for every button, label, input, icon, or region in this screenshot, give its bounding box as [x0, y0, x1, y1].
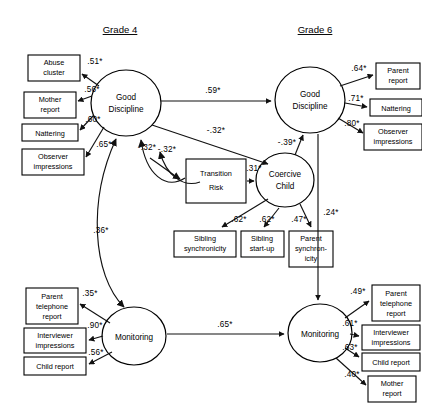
- coef-g4mon-interviewer: .90*: [87, 321, 103, 330]
- coef-g6mon-childreport: .63*: [342, 343, 358, 352]
- node-g6-good-discipline: Good Discipline: [275, 67, 345, 133]
- coef-g4disc-nattering: .60*: [85, 115, 101, 124]
- box-sibling-startup-line2: start-up: [250, 244, 275, 253]
- box-g4-observer-impressions: Observer impressions: [22, 149, 84, 175]
- coef-transition-coercive: .31*: [246, 164, 262, 173]
- node-g6-good-discipline-line2: Discipline: [292, 102, 327, 111]
- box-g6-observer-line2: impressions: [374, 137, 413, 146]
- box-g6-parent-report-line1: Parent: [387, 66, 409, 75]
- box-g4-child-report-label: Child report: [36, 362, 74, 371]
- coef-g4disc-observer: .65*: [96, 140, 112, 149]
- node-g4-good-discipline: Good Discipline: [91, 70, 161, 136]
- box-g6-parent-report-line2: report: [388, 76, 407, 85]
- box-transition-risk-line2: Risk: [209, 183, 224, 192]
- coef-g4mon-parenttel: .35*: [82, 289, 98, 298]
- box-g4-mother-report-line1: Mother: [39, 95, 62, 104]
- node-g6-monitoring-label: Monitoring: [301, 330, 340, 339]
- coef-g6mon-parenttel: .49*: [350, 287, 366, 296]
- box-sibling-synchronicity: Sibling synchronicity: [174, 231, 236, 257]
- box-g4-child-report: Child report: [24, 357, 86, 375]
- box-g6-parent-tel-line3: report: [386, 309, 405, 318]
- coef-g4mon-g6mon: .65*: [217, 320, 233, 329]
- box-sibling-sync-line1: Sibling: [194, 234, 216, 243]
- coef-g6mon-interviewer: .61*: [342, 319, 358, 328]
- box-g6-interviewer-line2: impressions: [372, 338, 411, 347]
- box-g6-nattering: Nattering: [370, 99, 422, 116]
- box-g4-mother-report: Mother report: [24, 92, 76, 118]
- box-g6-mother-report-line2: report: [382, 389, 401, 398]
- box-g6-nattering-label: Nattering: [381, 104, 411, 113]
- box-g6-mother-report-line1: Mother: [381, 379, 404, 388]
- box-abuse-cluster: Abuse cluster: [28, 55, 80, 81]
- box-sibling-startup: Sibling start-up: [241, 231, 284, 257]
- node-g4-good-discipline-line2: Discipline: [108, 105, 143, 114]
- coef-coercive-g6disc: -.39*: [278, 138, 297, 147]
- coef-g6mon-mother: .40*: [344, 370, 360, 379]
- box-g6-parent-telephone-report: Parent telephone report: [372, 285, 420, 321]
- box-g6-child-report: Child report: [362, 353, 420, 371]
- node-g4-good-discipline-line1: Good: [116, 93, 136, 102]
- box-g6-interviewer-impressions: Interviewer impressions: [362, 325, 420, 350]
- box-transition-risk: Transition Risk: [186, 159, 246, 203]
- coef-g4disc-abuse: .51*: [87, 57, 103, 66]
- box-g6-mother-report: Mother report: [368, 376, 416, 402]
- coef-g6disc-observer: .80*: [344, 119, 360, 128]
- node-coercive-child: Coercive Child: [256, 153, 314, 207]
- node-coercive-child-line1: Coercive: [269, 170, 302, 179]
- box-g4-interviewer-line2: impressions: [36, 341, 75, 350]
- box-abuse-cluster-line1: Abuse: [44, 58, 65, 67]
- box-g6-interviewer-line1: Interviewer: [373, 328, 409, 337]
- box-parent-synchronicity: Parent synchron- icity: [289, 231, 333, 267]
- node-g4-monitoring-label: Monitoring: [115, 333, 154, 342]
- path-diagram-canvas: Grade 4 Grade 6 Abuse cluster Mother rep…: [0, 0, 422, 412]
- box-parent-sync-line3: icity: [305, 254, 318, 263]
- node-coercive-child-line2: Child: [276, 182, 295, 191]
- box-g6-observer-line1: Observer: [378, 127, 409, 136]
- box-sibling-startup-line1: Sibling: [251, 234, 273, 243]
- coef-g4disc-g4mon: .36*: [93, 226, 109, 235]
- box-parent-sync-line2: synchron-: [295, 244, 328, 253]
- box-g6-parent-tel-line2: telephone: [380, 299, 412, 308]
- node-g6-monitoring: Monitoring: [288, 304, 352, 362]
- box-g4-mother-report-line2: report: [40, 105, 59, 114]
- box-g4-interviewer-impressions: Interviewer impressions: [24, 328, 86, 353]
- box-g4-interviewer-line1: Interviewer: [37, 331, 73, 340]
- grade4-title: Grade 4: [103, 24, 138, 35]
- grade6-title: Grade 6: [298, 24, 333, 35]
- coef-g4disc-mother: .56*: [84, 85, 100, 94]
- coef-transition-g4disc-secondary: -.32*: [138, 143, 157, 152]
- coef-g4mon-childreport: .56*: [88, 348, 104, 357]
- node-g6-good-discipline-line1: Good: [300, 90, 320, 99]
- box-g6-parent-tel-line1: Parent: [385, 289, 407, 298]
- box-g6-child-report-label: Child report: [372, 358, 410, 367]
- box-g4-parent-telephone-report: Parent telephone report: [26, 288, 78, 324]
- box-sibling-sync-line2: synchronicity: [184, 244, 227, 253]
- box-g4-nattering-label: Nattering: [35, 129, 65, 138]
- box-transition-risk-line1: Transition: [200, 169, 232, 178]
- box-g4-observer-line2: impressions: [34, 162, 73, 171]
- box-g4-parent-tel-line1: Parent: [41, 292, 63, 301]
- coef-g6disc-nattering: .71*: [348, 94, 364, 103]
- coef-g6disc-parentreport: .64*: [351, 64, 367, 73]
- box-g4-parent-tel-line3: report: [42, 312, 61, 321]
- coef-g4disc-coercive: -.32*: [207, 126, 226, 135]
- coef-coercive-parentsync: .47*: [291, 215, 307, 224]
- coef-g4disc-g6disc: .59*: [205, 86, 221, 95]
- coef-transition-g4disc: -.32*: [158, 145, 177, 154]
- coef-g6disc-g6mon: .24*: [323, 208, 339, 217]
- box-g4-observer-line1: Observer: [38, 152, 69, 161]
- node-g4-monitoring: Monitoring: [102, 307, 166, 365]
- box-g6-parent-report: Parent report: [376, 63, 420, 89]
- coef-coercive-siblingsync: .62*: [231, 215, 247, 224]
- box-g4-nattering: Nattering: [22, 124, 78, 141]
- box-g6-observer-impressions: Observer impressions: [364, 124, 422, 150]
- box-abuse-cluster-line2: cluster: [43, 68, 65, 77]
- box-g4-parent-tel-line2: telephone: [36, 302, 68, 311]
- coef-coercive-siblingstartup: .62*: [259, 215, 275, 224]
